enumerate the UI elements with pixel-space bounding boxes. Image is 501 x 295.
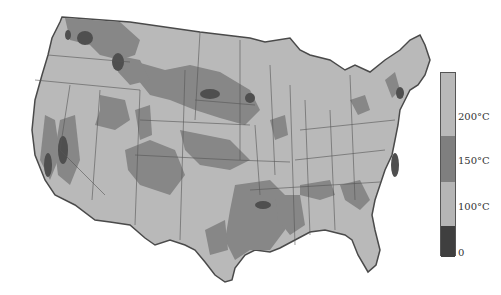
legend-label-0: 0 xyxy=(458,248,464,258)
legend-band-100-150 xyxy=(441,182,455,226)
legend-label-100: 100°C xyxy=(458,202,490,212)
legend-band-150-200 xyxy=(441,136,455,182)
legend-band-0-100 xyxy=(441,226,455,257)
legend-label-150: 150°C xyxy=(458,156,490,166)
legend-label-200: 200°C xyxy=(458,112,490,122)
temperature-legend xyxy=(440,72,456,256)
us-temperature-map xyxy=(0,0,501,295)
legend-band-above-200 xyxy=(441,73,455,136)
